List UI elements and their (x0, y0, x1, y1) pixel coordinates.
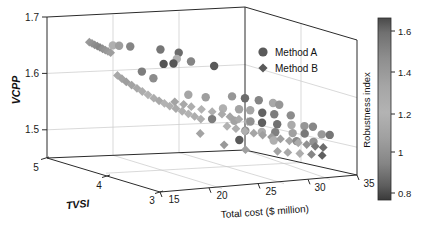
cbar-label-2: 1.2 (398, 109, 411, 120)
data-point-circle (326, 131, 334, 139)
data-point-circle (187, 57, 195, 65)
axes-box (47, 7, 357, 192)
data-point-circle (159, 60, 167, 68)
y-axis-title: TVSI (65, 197, 91, 211)
colorbar-gradient (378, 18, 391, 200)
data-point-circle (235, 136, 243, 144)
colorbar: 1.6 1.4 1.2 1 0.8 Robustness index (361, 18, 411, 200)
z-axis-title: VCPP (10, 75, 22, 105)
legend-label-method-a: Method A (275, 47, 318, 58)
ztick-label-2: 1.5 (25, 124, 39, 135)
data-point-circle (287, 111, 295, 119)
legend-label-method-b: Method B (275, 63, 318, 74)
legend-marker-circle-icon (258, 47, 267, 56)
data-point-circle (318, 130, 326, 138)
data-point-circle (301, 129, 309, 137)
data-point-circle (246, 106, 254, 114)
data-point-circle (208, 115, 216, 123)
data-point-circle (309, 123, 317, 131)
back-wall-left (47, 7, 245, 158)
data-point-circle (202, 93, 210, 101)
data-point-circle (228, 92, 236, 100)
xtick-label-0: 15 (168, 194, 180, 205)
ytick-label-2: 3 (149, 195, 155, 206)
xtick-mark-2 (209, 188, 211, 193)
data-point-circle (275, 101, 283, 109)
data-point-circle (288, 129, 296, 137)
xtick-label-2: 25 (265, 186, 277, 197)
data-point-circle (258, 119, 266, 127)
xtick-mark-4 (308, 179, 310, 184)
cbar-label-1: 1.4 (398, 67, 411, 78)
plot-canvas: 1.7 1.6 1.5 5 4 3 15 20 25 30 35 VCPP TV… (0, 0, 426, 226)
ytick-label-0: 5 (33, 162, 39, 173)
data-point-circle (149, 74, 157, 82)
data-point-circle (235, 105, 243, 113)
ztick-label-0: 1.7 (25, 12, 39, 23)
cbar-label-3: 1 (398, 147, 403, 158)
data-point-circle (255, 96, 263, 104)
xtick-mark-5 (357, 175, 359, 180)
data-point-circle (287, 121, 295, 129)
data-point-circle (241, 94, 249, 102)
figure-3d-scatter: 1.7 1.6 1.5 5 4 3 15 20 25 30 35 VCPP TV… (0, 0, 426, 226)
data-point-circle (115, 42, 123, 50)
cbar-label-0: 1.6 (398, 26, 411, 37)
data-point-circle (156, 45, 164, 53)
data-point-circle (210, 62, 218, 70)
data-point-circle (184, 91, 192, 99)
xtick-mark-1 (160, 192, 162, 197)
colorbar-title: Robustness index (361, 72, 372, 148)
z-axis-ticks: 1.7 1.6 1.5 (25, 12, 47, 136)
data-point-circle (169, 59, 177, 67)
xtick-label-4: 35 (363, 178, 375, 189)
data-point-circle (246, 117, 254, 125)
ztick-label-1: 1.6 (25, 68, 39, 79)
data-point-circle (273, 120, 281, 128)
data-point-circle (126, 42, 134, 50)
data-point-circle (270, 136, 278, 144)
data-point-circle (258, 109, 266, 117)
xtick-label-3: 30 (314, 182, 326, 193)
data-point-circle (270, 110, 278, 118)
data-point-circle (138, 67, 146, 75)
x-axis-title: Total cost ($ million) (220, 203, 309, 220)
cbar-label-4: 0.8 (398, 188, 411, 199)
xtick-mark-3 (258, 184, 260, 189)
xtick-label-1: 20 (216, 190, 228, 201)
data-point-circle (300, 122, 308, 130)
ytick-label-1: 4 (96, 180, 102, 191)
